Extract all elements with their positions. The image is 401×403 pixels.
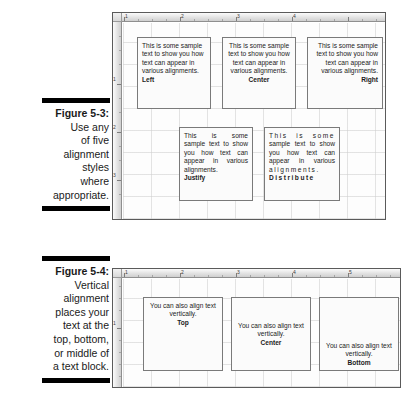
- caption-line: alignment: [0, 292, 109, 306]
- caption-text-5-4: Figure 5-4: Vertical alignment places yo…: [0, 261, 112, 378]
- textbox-valign-center[interactable]: You can also align text vertically. Cent…: [231, 297, 311, 371]
- caption-line: text at the: [0, 319, 109, 333]
- caption-line: where: [0, 175, 109, 189]
- caption-line: a text block.: [0, 360, 109, 374]
- text-line: This is some: [184, 132, 248, 140]
- ruler-number: 3: [237, 13, 240, 20]
- text-line: You can also align: [238, 322, 291, 329]
- caption-rule-bottom: [42, 206, 110, 211]
- caption-text-5-3: Figure 5-3: Use any of five alignment st…: [0, 103, 112, 206]
- textbox-distribute-label: Distribute: [269, 174, 335, 182]
- textbox-valign-center-body: You can also align text vertically. Cent…: [236, 322, 306, 347]
- textbox-right-body: This is some sample text to show you how…: [312, 42, 378, 76]
- ruler-number: 1: [125, 13, 128, 20]
- text-line: sample text to show: [184, 140, 248, 148]
- textbox-valign-bottom[interactable]: You can also align text vertically. Bott…: [319, 297, 399, 371]
- caption-rule-bottom: [42, 378, 110, 383]
- text-line: This is some: [318, 42, 355, 49]
- text-line: This is some: [142, 42, 179, 49]
- ruler-corner: [113, 13, 122, 22]
- caption-line: styles: [0, 161, 109, 175]
- textbox-center-body: This is some sample text to show you how…: [227, 42, 291, 76]
- figure-5-3-caption: Figure 5-3: Use any of five alignment st…: [0, 98, 112, 211]
- textbox-right-label: Right: [312, 76, 378, 84]
- textbox-distribute[interactable]: This is some sample text to show you how…: [264, 127, 340, 201]
- textbox-valign-top-label: Top: [148, 319, 218, 327]
- text-line: you how text can: [269, 149, 335, 157]
- caption-line: Use any: [0, 121, 109, 135]
- ruler-number: 4: [293, 13, 296, 20]
- ruler-number: 2: [113, 124, 116, 130]
- text-line: This is some: [229, 42, 266, 49]
- figure-5-4-panel: 1 2 3 4 5 1: [112, 268, 401, 388]
- ruler-number: 1: [125, 269, 128, 276]
- ruler-number: 3: [237, 269, 240, 276]
- text-line: alignments.: [269, 166, 335, 174]
- text-line: alignments.: [344, 67, 378, 74]
- textbox-justify-body: This is some sample text to show you how…: [184, 132, 248, 174]
- textbox-distribute-body: This is some sample text to show you how…: [269, 132, 335, 174]
- caption-line: Vertical: [0, 279, 109, 293]
- text-line: You can also align: [326, 342, 379, 349]
- ruler-number: 4: [293, 269, 296, 276]
- figure-number-5-4: Figure 5-4:: [0, 265, 109, 279]
- figure-number-5-3: Figure 5-3:: [0, 107, 109, 121]
- textbox-justify[interactable]: This is some sample text to show you how…: [179, 127, 253, 201]
- ruler-number: 2: [181, 269, 184, 276]
- ruler-number: 1: [113, 320, 116, 326]
- textbox-center-label: Center: [227, 76, 291, 84]
- caption-line: of five: [0, 134, 109, 148]
- textbox-left-body: This is some sample text to show you how…: [142, 42, 206, 76]
- ruler-corner: [113, 269, 122, 278]
- text-line: sample text to show: [269, 140, 335, 148]
- horizontal-ruler[interactable]: 1 2 3 4: [122, 13, 385, 22]
- figure-5-3-panel: 1 2 3 4 1 2 3: [112, 12, 386, 220]
- figure-5-4-caption: Figure 5-4: Vertical alignment places yo…: [0, 256, 112, 383]
- text-line: alignments.: [254, 67, 288, 74]
- textbox-valign-bottom-body: You can also align text vertically. Bott…: [324, 342, 394, 367]
- textbox-valign-top-body: You can also align text vertically. Top: [148, 302, 218, 327]
- textbox-left[interactable]: This is some sample text to show you how…: [137, 37, 211, 109]
- vertical-ruler[interactable]: 1: [113, 278, 122, 387]
- document-canvas[interactable]: You can also align text vertically. Top …: [123, 279, 400, 387]
- text-line: alignments.: [184, 166, 248, 174]
- text-line: alignments.: [165, 67, 199, 74]
- caption-line: or middle of: [0, 347, 109, 361]
- textbox-valign-center-label: Center: [236, 339, 306, 347]
- textbox-valign-top[interactable]: You can also align text vertically. Top: [143, 297, 223, 371]
- caption-line: appropriate.: [0, 189, 109, 203]
- ruler-number: 2: [181, 13, 184, 20]
- textbox-justify-label: Justify: [184, 174, 248, 182]
- textbox-center[interactable]: This is some sample text to show you how…: [222, 37, 296, 109]
- textbox-right[interactable]: This is some sample text to show you how…: [307, 37, 383, 109]
- document-canvas[interactable]: This is some sample text to show you how…: [123, 23, 385, 219]
- text-line: You can also align: [150, 302, 203, 309]
- ruler-number: 5: [349, 269, 352, 276]
- horizontal-ruler[interactable]: 1 2 3 4 5: [122, 269, 400, 278]
- caption-line: alignment: [0, 148, 109, 162]
- ruler-number: 1: [113, 76, 116, 82]
- caption-line: places your: [0, 306, 109, 320]
- text-line: you how text can: [184, 149, 248, 157]
- ruler-number: 3: [113, 172, 116, 178]
- text-line: appear in various: [269, 157, 335, 165]
- textbox-valign-bottom-label: Bottom: [324, 359, 394, 367]
- text-line: This is some: [269, 132, 335, 140]
- vertical-ruler[interactable]: 1 2 3: [113, 22, 122, 219]
- text-line: appear in various: [184, 157, 248, 165]
- textbox-left-label: Left: [142, 76, 206, 84]
- caption-line: top, bottom,: [0, 333, 109, 347]
